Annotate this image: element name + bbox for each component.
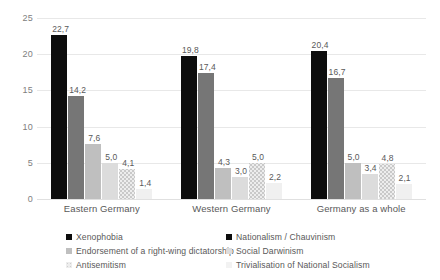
bar-xenophobia[interactable]: 20,4 <box>311 51 327 199</box>
legend-swatch-icon <box>226 262 232 268</box>
legend-swatch-icon <box>66 262 72 268</box>
legend-label: Trivialisation of National Socialism <box>236 260 370 270</box>
x-category-label: Eastern Germany <box>37 203 167 219</box>
legend-item-social-darwinism[interactable]: Social Darwinism <box>226 244 406 258</box>
legend-item-antisemitism[interactable]: Antisemitism <box>66 258 222 272</box>
legend-label: Antisemitism <box>76 260 126 270</box>
legend-item-trivialisation-national-socialism[interactable]: Trivialisation of National Socialism <box>226 258 406 272</box>
bar-endorsement-right-wing-dictatorship[interactable]: 4,3 <box>215 168 231 199</box>
bar-social-darwinism[interactable]: 5,0 <box>102 163 118 199</box>
bar-slot: 5,0 <box>249 18 265 199</box>
bar-value-label: 16,7 <box>329 67 346 77</box>
x-category-label: Germany as a whole <box>296 203 426 219</box>
y-tick-15: 15 <box>23 85 33 95</box>
bar-value-label: 17,4 <box>199 62 216 72</box>
bar-nationalism-chauvinism[interactable]: 17,4 <box>198 73 214 199</box>
bar-value-label: 4,3 <box>218 157 230 167</box>
bar-value-label: 5,0 <box>252 152 264 162</box>
bar-antisemitism[interactable]: 4,1 <box>119 169 135 199</box>
y-tick-25: 25 <box>23 13 33 23</box>
bar-chart: 25 20 15 10 5 0 22,7 14,2 <box>0 0 440 280</box>
legend-swatch-icon <box>66 234 72 240</box>
bar-slot: 14,2 <box>68 18 84 199</box>
legend-swatch-icon <box>226 248 232 254</box>
bar-slot: 5,0 <box>102 18 118 199</box>
bar-slot: 2,1 <box>396 18 412 199</box>
legend-label: Social Darwinism <box>236 246 304 256</box>
bar-social-darwinism[interactable]: 3,0 <box>232 177 248 199</box>
legend-label: Endorsement of a right-wing dictatorship <box>76 246 234 256</box>
y-tick-0: 0 <box>28 194 33 204</box>
legend-item-xenophobia[interactable]: Xenophobia <box>66 230 222 244</box>
bar-value-label: 5,0 <box>348 152 360 162</box>
bar-value-label: 4,1 <box>122 158 134 168</box>
y-tick-5: 5 <box>28 158 33 168</box>
bar-slot: 7,6 <box>85 18 101 199</box>
y-axis: 25 20 15 10 5 0 <box>0 18 33 199</box>
bar-slot: 5,0 <box>345 18 361 199</box>
bar-slot: 3,0 <box>232 18 248 199</box>
bar-slot: 3,4 <box>362 18 378 199</box>
bar-xenophobia[interactable]: 22,7 <box>51 35 67 199</box>
bar-slot: 2,2 <box>266 18 282 199</box>
bar-endorsement-right-wing-dictatorship[interactable]: 7,6 <box>85 144 101 199</box>
bar-value-label: 4,8 <box>382 153 394 163</box>
legend-item-nationalism-chauvinism[interactable]: Nationalism / Chauvinism <box>226 230 406 244</box>
bar-value-label: 3,0 <box>235 166 247 176</box>
bar-group-eastern-germany: 22,7 14,2 7,6 5,0 <box>37 18 167 199</box>
legend-item-endorsement-right-wing-dictatorship[interactable]: Endorsement of a right-wing dictatorship <box>66 244 222 258</box>
axis-baseline <box>37 199 426 200</box>
bar-value-label: 19,8 <box>182 45 199 55</box>
x-axis-categories: Eastern Germany Western Germany Germany … <box>37 203 426 219</box>
bar-antisemitism[interactable]: 5,0 <box>249 163 265 199</box>
bar-value-label: 7,6 <box>88 133 100 143</box>
bar-slot: 1,4 <box>136 18 152 199</box>
legend-swatch-icon <box>66 248 72 254</box>
bar-slot: 4,8 <box>379 18 395 199</box>
bar-value-label: 22,7 <box>52 24 69 34</box>
bar-value-label: 20,4 <box>312 40 329 50</box>
bar-trivialisation-national-socialism[interactable]: 1,4 <box>136 189 152 199</box>
bar-trivialisation-national-socialism[interactable]: 2,1 <box>396 184 412 199</box>
y-tick-10: 10 <box>23 122 33 132</box>
bar-nationalism-chauvinism[interactable]: 14,2 <box>68 96 84 199</box>
bar-slot: 22,7 <box>51 18 67 199</box>
bar-value-label: 5,0 <box>105 152 117 162</box>
legend-swatch-icon <box>226 234 232 240</box>
bar-value-label: 2,2 <box>269 172 281 182</box>
bar-trivialisation-national-socialism[interactable]: 2,2 <box>266 183 282 199</box>
bar-groups: 22,7 14,2 7,6 5,0 <box>37 18 426 199</box>
bar-value-label: 14,2 <box>69 85 86 95</box>
bar-value-label: 3,4 <box>365 163 377 173</box>
bar-xenophobia[interactable]: 19,8 <box>181 56 197 199</box>
legend-label: Nationalism / Chauvinism <box>236 232 335 242</box>
bar-social-darwinism[interactable]: 3,4 <box>362 174 378 199</box>
bar-slot: 20,4 <box>311 18 327 199</box>
bar-slot: 4,3 <box>215 18 231 199</box>
legend-label: Xenophobia <box>76 232 123 242</box>
bar-slot: 4,1 <box>119 18 135 199</box>
bar-group-germany-as-a-whole: 20,4 16,7 5,0 3,4 <box>296 18 426 199</box>
x-category-label: Western Germany <box>167 203 297 219</box>
bar-value-label: 1,4 <box>139 178 151 188</box>
bar-slot: 19,8 <box>181 18 197 199</box>
bar-group-western-germany: 19,8 17,4 4,3 3,0 <box>167 18 297 199</box>
bar-slot: 17,4 <box>198 18 214 199</box>
y-tick-20: 20 <box>23 49 33 59</box>
bar-nationalism-chauvinism[interactable]: 16,7 <box>328 78 344 199</box>
bar-antisemitism[interactable]: 4,8 <box>379 164 395 199</box>
bar-slot: 16,7 <box>328 18 344 199</box>
bar-endorsement-right-wing-dictatorship[interactable]: 5,0 <box>345 163 361 199</box>
bar-value-label: 2,1 <box>399 173 411 183</box>
chart-legend: Xenophobia Nationalism / Chauvinism Endo… <box>66 230 406 272</box>
